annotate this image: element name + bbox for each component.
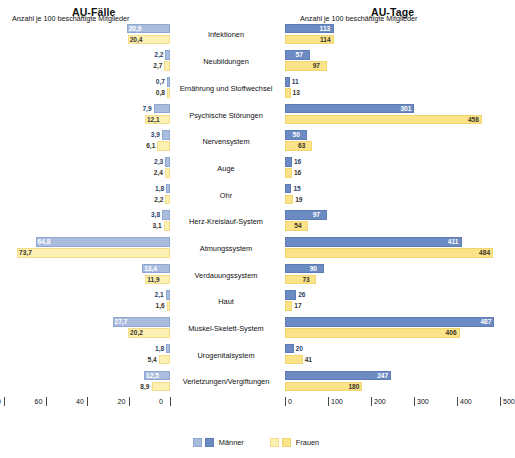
bar-au-tage-frauen [285,248,493,258]
value-label-au-tage-maenner: 97 [313,210,320,220]
value-label-au-tage-frauen: 17 [294,301,301,311]
category-label: Psychische Störungen [170,102,282,129]
bar-au-tage-frauen [285,115,482,125]
bar-au-tage-maenner [285,317,494,327]
value-label-au-tage-maenner: 20 [296,344,303,354]
value-label-au-faelle-frauen: 73,7 [19,248,32,258]
value-label-au-faelle-frauen: 20,4 [130,35,143,45]
value-label-au-tage-maenner: 247 [377,371,388,381]
value-label-au-tage-maenner: 57 [296,50,303,60]
value-label-au-tage-maenner: 411 [448,237,459,247]
row-bars-au-faelle: 20,920,4 [0,22,170,49]
bar-au-tage-frauen [285,328,460,338]
value-label-au-faelle-frauen: 0,8 [152,88,165,98]
chart-row: 64,873,7Atmungssystem411484 [0,236,512,263]
row-bars-au-faelle: 1,85,4 [0,342,170,369]
value-label-au-faelle-maenner: 12,5 [146,371,159,381]
legend-label: Frauen [296,438,319,447]
bar-au-tage-maenner [285,264,324,274]
legend-swatch-light [193,438,202,447]
value-label-au-faelle-maenner: 3,9 [147,130,160,140]
value-label-au-faelle-maenner: 1,8 [151,344,164,354]
row-bars-au-faelle: 3,96,1 [0,129,170,156]
row-bars-au-tage: 487406 [285,316,500,343]
axis-tick-right: 300 [414,398,429,405]
row-bars-au-tage: 5797 [285,49,500,76]
row-bars-au-faelle: 2,11,6 [0,289,170,316]
legend-item[interactable]: Frauen [270,438,319,447]
axis-tick-right: 400 [457,398,472,405]
value-label-au-tage-frauen: 406 [446,328,457,338]
bar-au-faelle-maenner [36,237,170,247]
value-label-au-faelle-maenner: 2,1 [151,290,164,300]
bar-au-tage-frauen [285,275,316,285]
value-label-au-faelle-maenner: 1,8 [151,184,164,194]
bar-au-tage-maenner [285,210,327,220]
value-label-au-tage-frauen: 63 [298,141,305,151]
category-label: Atmungssystem [170,236,282,263]
value-label-au-tage-frauen: 458 [468,115,479,125]
legend-swatch-dark [282,438,291,447]
value-label-au-faelle-maenner: 2,2 [150,50,163,60]
value-label-au-faelle-maenner: 3,8 [147,210,160,220]
value-label-au-tage-frauen: 73 [302,275,309,285]
row-bars-au-faelle: 13,411,9 [0,262,170,289]
row-bars-au-faelle: 2,32,4 [0,155,170,182]
value-label-au-faelle-frauen: 6,1 [142,141,155,151]
value-label-au-faelle-frauen: 5,4 [144,355,157,365]
value-label-au-tage-frauen: 114 [320,35,331,45]
value-label-au-tage-maenner: 11 [292,77,299,87]
chart-row: 3,83,1Herz-Kreislauf-System9754 [0,209,512,236]
value-label-au-faelle-maenner: 20,9 [129,24,142,34]
value-label-au-faelle-maenner: 13,4 [144,264,157,274]
category-label: Ernährung und Stoffwechsel [170,75,282,102]
row-bars-au-faelle: 27,720,2 [0,316,170,343]
chart-row: 2,11,6Haut2617 [0,289,512,316]
axis-tick-right: 200 [371,398,386,405]
chart-row: 2,32,4Auge1616 [0,155,512,182]
value-label-au-tage-frauen: 16 [294,168,301,178]
axis-tick-left: 20 [118,398,126,405]
row-bars-au-tage: 9073 [285,262,500,289]
value-label-au-tage-maenner: 487 [480,317,491,327]
bar-au-tage-maenner [285,157,292,167]
bar-au-tage-maenner [285,77,290,87]
axis-right: 0100200300400500 [282,398,504,424]
value-label-au-tage-frauen: 19 [295,195,302,205]
bar-au-faelle-maenner [154,104,170,114]
chart-row: 27,720,2Muskel-Skelett-System487406 [0,316,512,343]
value-label-au-tage-frauen: 41 [305,355,312,365]
chart-row: 12,58,9Verletzungen/Vergiftungen247180 [0,369,512,396]
axis-tick-right: 500 [500,398,515,405]
bar-au-tage-frauen [285,61,327,71]
legend-item[interactable]: Männer [193,438,244,447]
chart-row: 0,70,8Ernährung und Stoffwechsel1113 [0,75,512,102]
value-label-au-tage-maenner: 15 [293,184,300,194]
row-bars-au-tage: 2041 [285,342,500,369]
value-label-au-tage-maenner: 90 [310,264,317,274]
row-bars-au-faelle: 64,873,7 [0,236,170,263]
bar-au-tage-maenner [285,290,296,300]
value-label-au-faelle-frauen: 2,4 [150,168,163,178]
row-bars-au-faelle: 3,83,1 [0,209,170,236]
value-label-au-faelle-maenner: 64,8 [38,237,51,247]
row-bars-au-tage: 247180 [285,369,500,396]
chart-row: 1,82,2Ohr1519 [0,182,512,209]
chart-row: 20,920,4Infektionen113114 [0,22,512,49]
value-label-au-tage-frauen: 484 [479,248,490,258]
chart-row: 2,22,7Neubildungen5797 [0,49,512,76]
value-label-au-faelle-frauen: 8,9 [137,382,150,392]
chart-legend: MännerFrauen [0,438,512,447]
bar-au-tage-frauen [285,168,292,178]
value-label-au-tage-frauen: 97 [313,61,320,71]
bar-au-tage-maenner [285,371,391,381]
category-label: Infektionen [170,22,282,49]
value-label-au-tage-maenner: 113 [320,24,331,34]
bar-au-tage-frauen [285,88,291,98]
category-label: Urogenitalsystem [170,342,282,369]
value-label-au-tage-maenner: 16 [294,157,301,167]
row-bars-au-tage: 113114 [285,22,500,49]
chart-row: 13,411,9Verdauungssystem9073 [0,262,512,289]
category-label: Auge [170,155,282,182]
axis-tick-left: 40 [76,398,84,405]
